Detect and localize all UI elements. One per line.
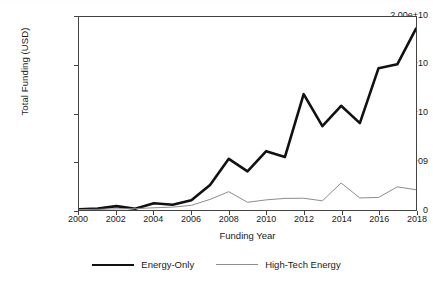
plot-area — [78, 16, 417, 211]
chart-legend: Energy-OnlyHigh-Tech Energy — [0, 259, 433, 270]
legend-item[interactable]: Energy-Only — [92, 259, 194, 270]
x-tick-mark — [342, 211, 343, 215]
x-tick-mark — [116, 211, 117, 215]
x-tick-label: 2018 — [394, 214, 433, 224]
chart-figure: Total Funding (USD) 05.00e+091.00e+101.5… — [0, 0, 433, 288]
legend-line-swatch — [216, 264, 258, 265]
series-line — [79, 183, 416, 210]
y-axis-title: Total Funding (USD) — [19, 0, 30, 152]
x-tick-mark — [78, 211, 79, 215]
x-axis-title: Funding Year — [78, 230, 417, 241]
cropped-title-sliver — [0, 0, 433, 3]
x-tick-mark — [191, 211, 192, 215]
series-line — [79, 29, 416, 210]
x-tick-mark — [229, 211, 230, 215]
legend-item[interactable]: High-Tech Energy — [216, 259, 341, 270]
x-tick-mark — [379, 211, 380, 215]
x-tick-mark — [153, 211, 154, 215]
legend-line-swatch — [92, 264, 134, 266]
x-tick-mark — [304, 211, 305, 215]
legend-label: High-Tech Energy — [265, 259, 341, 270]
x-tick-mark — [417, 211, 418, 215]
x-tick-mark — [266, 211, 267, 215]
legend-label: Energy-Only — [141, 259, 194, 270]
series-lines — [79, 17, 416, 210]
